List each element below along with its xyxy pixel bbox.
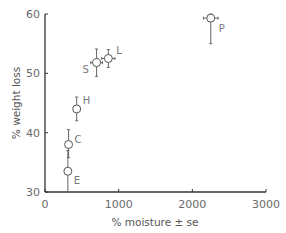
marker-circle: [64, 167, 72, 175]
y-tick-label: 60: [26, 8, 40, 21]
data-point-h: H: [73, 95, 91, 121]
marker-circle: [93, 59, 101, 67]
marker-circle: [207, 14, 215, 22]
marker-circle: [104, 55, 112, 63]
scatter-chart: 010002000300030405060 PLSHCE % moisture …: [0, 0, 286, 233]
data-point-p: P: [203, 14, 224, 44]
x-tick-label: 2000: [178, 198, 206, 211]
point-label: C: [75, 134, 82, 145]
data-point-s: S: [83, 49, 103, 76]
data-point-c: C: [65, 130, 82, 158]
data-points: PLSHCE: [64, 14, 225, 192]
data-point-l: L: [102, 45, 123, 68]
x-tick-label: 0: [42, 198, 49, 211]
axes: 010002000300030405060: [26, 8, 280, 211]
point-label: S: [83, 64, 89, 75]
marker-circle: [65, 141, 73, 149]
y-tick-label: 40: [26, 127, 40, 140]
y-axis-label: % weight loss: [10, 67, 22, 139]
x-axis-label: % moisture ± se: [111, 216, 198, 228]
point-label: P: [219, 23, 225, 34]
x-tick-label: 1000: [105, 198, 133, 211]
point-label: L: [116, 45, 122, 56]
y-tick-label: 50: [26, 67, 40, 80]
data-point-e: E: [64, 150, 80, 192]
y-tick-label: 30: [26, 186, 40, 199]
x-tick-label: 3000: [252, 198, 280, 211]
point-label: E: [74, 175, 80, 186]
marker-circle: [73, 105, 81, 113]
point-label: H: [83, 95, 91, 106]
